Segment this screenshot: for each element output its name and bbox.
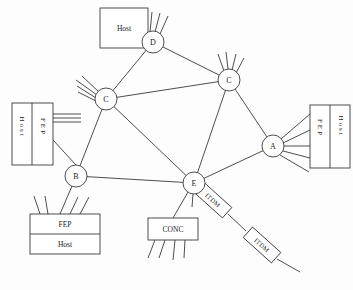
stub-b-bottombox (60, 186, 72, 214)
host-fep-left-box-label-fep: FEP (39, 118, 47, 136)
stub-c2-1 (218, 54, 224, 71)
node-d-label: D (150, 38, 156, 47)
stub-conc-2 (159, 240, 165, 258)
stub-itdm-chain-2 (277, 259, 300, 272)
itdm-box-2[interactable]: ITDM (243, 227, 281, 263)
stub-a-5 (280, 155, 309, 172)
host-top-box[interactable]: Host (100, 8, 148, 48)
link-c1-b (76, 99, 106, 176)
node-a[interactable]: A (262, 135, 284, 157)
link-c2-a (229, 80, 273, 146)
fep-host-bottom-box-label-fep: FEP (59, 220, 72, 229)
stub-c2-2 (226, 52, 228, 69)
node-a-label: A (270, 142, 276, 151)
link-a-e (194, 146, 273, 183)
stub-c2-3 (232, 54, 236, 70)
host-fep-left-box[interactable]: Host FEP (12, 103, 53, 165)
link-c1-c2 (106, 80, 229, 99)
network-diagram: Host Host FEP FEP Host FEP Host (0, 0, 353, 290)
link-d-c2 (153, 42, 229, 80)
stub-conc-4 (184, 240, 185, 258)
fep-host-right-box-label-fep: FEP (316, 119, 324, 137)
stub-e-down (192, 194, 193, 207)
stub-conc-3 (173, 240, 175, 260)
fep-host-right-box[interactable]: FEP Host (310, 105, 350, 168)
diagram-canvas: Host Host FEP FEP Host FEP Host (0, 0, 353, 290)
stub-c1-4 (82, 76, 99, 92)
stub-d-2 (155, 13, 160, 32)
stub-a-2 (283, 130, 310, 143)
node-b-label: B (73, 172, 78, 181)
stub-c2-4 (236, 58, 244, 73)
stub-bottombox-2 (45, 196, 48, 214)
fep-host-right-box-label-host: Host (337, 115, 345, 136)
host-top-box-label: Host (117, 24, 132, 33)
fep-host-bottom-box[interactable]: FEP Host (30, 214, 100, 254)
node-b[interactable]: B (65, 165, 87, 187)
link-b-e (76, 176, 194, 183)
stub-a-4 (283, 151, 310, 158)
node-d[interactable]: D (142, 31, 164, 53)
stub-leftbox-b (53, 140, 76, 165)
stub-e-conc (173, 192, 188, 218)
stub-d-1 (150, 12, 152, 32)
stub-a-1 (281, 114, 310, 139)
link-c1-e (106, 99, 194, 183)
stub-bottombox-1 (34, 196, 40, 214)
stub-d-3 (160, 16, 168, 34)
host-fep-left-box-label-host: Host (18, 116, 26, 137)
stub-itdm-chain-1 (228, 214, 246, 231)
conc-box-label: CONC (163, 225, 184, 234)
node-c2[interactable]: C (218, 69, 240, 91)
stub-bottombox-4 (80, 197, 89, 214)
node-c1-label: C (103, 95, 108, 104)
node-e-label: E (192, 179, 197, 188)
conc-box[interactable]: CONC (148, 218, 198, 240)
box-group: Host Host FEP FEP Host FEP Host (12, 8, 350, 254)
node-c1[interactable]: C (95, 88, 117, 110)
fep-host-bottom-box-label-host: Host (58, 240, 73, 249)
link-group (76, 42, 273, 183)
stub-conc-1 (148, 240, 155, 258)
node-e[interactable]: E (183, 172, 205, 194)
stub-bottombox-3 (70, 197, 78, 214)
link-c2-e (194, 80, 229, 183)
node-c2-label: C (226, 76, 231, 85)
